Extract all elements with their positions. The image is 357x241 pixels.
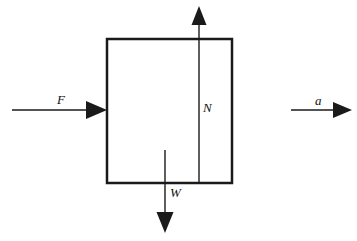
acceleration-label: a (315, 93, 322, 108)
free-body-diagram: N W F a (0, 0, 357, 241)
weight-force-arrowhead (157, 212, 174, 233)
applied-force-label: F (56, 92, 66, 107)
normal-force-arrowhead (192, 6, 207, 25)
diagram-svg: N W F a (0, 0, 357, 241)
normal-force-vector: N (192, 6, 214, 183)
acceleration-arrowhead (333, 102, 352, 118)
acceleration-vector: a (291, 93, 352, 118)
applied-force-vector: F (12, 92, 107, 119)
weight-force-label: W (170, 185, 182, 200)
applied-force-arrowhead (86, 101, 107, 119)
weight-force-vector: W (157, 150, 183, 233)
block-rectangle (107, 39, 232, 183)
normal-force-label: N (202, 100, 213, 115)
